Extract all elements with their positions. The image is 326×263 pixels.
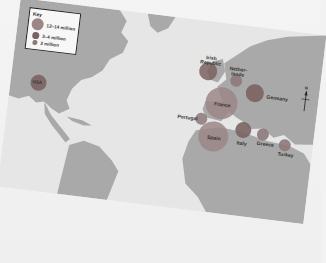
caribbean-land bbox=[66, 116, 93, 126]
map: Key 12–14 million 3–4 million 2 million bbox=[0, 0, 326, 224]
key-label-small: 2 million bbox=[40, 41, 59, 48]
medium-circle-icon bbox=[32, 32, 40, 40]
label-usa: USA bbox=[32, 80, 42, 86]
key-label-large: 12–14 million bbox=[46, 23, 75, 31]
large-circle-icon bbox=[31, 18, 44, 31]
greenland-land bbox=[146, 14, 176, 35]
label-netherlands: Nether- lands bbox=[229, 66, 248, 79]
label-italy: Italy bbox=[236, 140, 247, 146]
south-america-land bbox=[57, 138, 121, 201]
small-circle-icon bbox=[32, 40, 38, 46]
map-key: Key 12–14 million 3–4 million 2 million bbox=[25, 7, 82, 55]
